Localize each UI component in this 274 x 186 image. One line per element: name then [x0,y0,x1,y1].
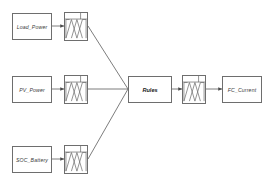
fuzzy-logic-block-diagram: Load_Power PV_Power SOC_Battery [0,0,274,186]
fuzzifier-block-soc-battery[interactable] [64,145,88,174]
inference-block-rules[interactable]: Rules [128,76,172,103]
input-label-pv-power: PV_Power [19,87,45,93]
rules-label: Rules [142,87,157,93]
fuzzifier-block-load-power[interactable] [64,12,88,41]
defuzzifier-block-output[interactable] [182,75,206,104]
membership-function-icon [183,76,205,103]
wire-mf-soc-to-rules [88,89,128,159]
fuzzifier-block-pv-power[interactable] [64,75,88,104]
membership-function-icon [65,13,87,40]
membership-function-icon [65,76,87,103]
input-label-soc-battery: SOC_Battery [16,157,48,163]
input-block-pv-power[interactable]: PV_Power [12,76,52,103]
output-block-fc-current[interactable]: FC_Current [222,76,262,103]
input-block-load-power[interactable]: Load_Power [12,13,52,40]
wire-mf-load-to-rules [88,26,128,89]
input-block-soc-battery[interactable]: SOC_Battery [12,146,52,173]
membership-function-icon [65,146,87,173]
output-label-fc-current: FC_Current [228,87,257,93]
input-label-load-power: Load_Power [17,24,48,30]
